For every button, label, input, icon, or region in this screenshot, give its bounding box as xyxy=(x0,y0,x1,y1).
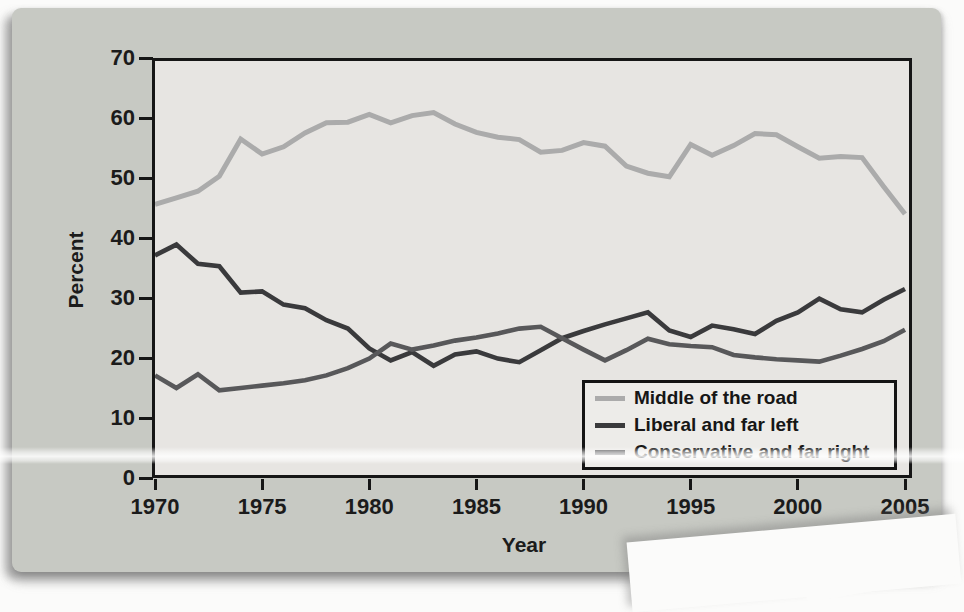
x-tick xyxy=(154,479,157,490)
legend-item-middle-of-the-road: Middle of the road xyxy=(595,385,894,411)
y-tick xyxy=(139,357,153,360)
y-tick-label: 10 xyxy=(79,406,135,430)
y-tick-label: 60 xyxy=(79,106,135,130)
x-tick xyxy=(368,479,371,490)
x-tick-label: 1985 xyxy=(436,495,516,519)
x-tick-label: 2000 xyxy=(758,495,838,519)
x-tick xyxy=(904,479,907,490)
legend-swatch-icon xyxy=(595,450,625,455)
x-tick xyxy=(689,479,692,490)
legend-label: Middle of the road xyxy=(634,388,798,408)
x-tick-label: 1975 xyxy=(222,495,302,519)
x-tick xyxy=(261,479,264,490)
y-tick-label: 0 xyxy=(79,466,135,490)
y-axis-title: Percent xyxy=(64,160,88,380)
chart-legend: Middle of the roadLiberal and far leftCo… xyxy=(582,380,897,470)
legend-swatch-icon xyxy=(595,423,625,428)
y-tick xyxy=(139,57,153,60)
x-tick-label: 1995 xyxy=(651,495,731,519)
x-tick-label: 1970 xyxy=(115,495,195,519)
y-tick xyxy=(139,177,153,180)
y-tick xyxy=(139,117,153,120)
x-tick-label: 1990 xyxy=(544,495,624,519)
y-tick xyxy=(139,237,153,240)
legend-label: Liberal and far left xyxy=(634,415,799,435)
legend-item-liberal-and-far-left: Liberal and far left xyxy=(595,412,894,438)
x-tick-label: 1980 xyxy=(329,495,409,519)
y-tick-label: 70 xyxy=(79,46,135,70)
y-tick xyxy=(139,477,153,480)
legend-item-conservative-and-far-right: Conservative and far right xyxy=(595,439,894,465)
figure-card: 010203040506070 197019751980198519901995… xyxy=(12,8,941,572)
legend-label: Conservative and far right xyxy=(634,442,869,462)
line-middle-of-the-road xyxy=(155,113,905,214)
x-axis-title: Year xyxy=(404,533,644,557)
line-liberal-and-far-left xyxy=(155,245,905,366)
y-tick xyxy=(139,417,153,420)
x-tick xyxy=(796,479,799,490)
y-tick xyxy=(139,297,153,300)
x-tick xyxy=(475,479,478,490)
legend-swatch-icon xyxy=(595,396,625,401)
x-tick xyxy=(582,479,585,490)
